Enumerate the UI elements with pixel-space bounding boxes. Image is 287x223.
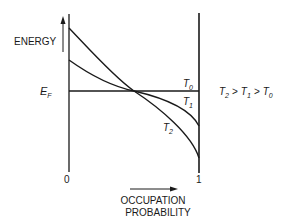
fermi-diagram: ENERGY EF T0 T1 T2 T2>T1>T0 0 1 OCCUPATI…: [0, 0, 287, 223]
x-tick-0: 0: [64, 174, 70, 185]
curve-t1: [69, 60, 199, 126]
x-tick-1: 1: [196, 174, 202, 185]
curve-t2: [69, 28, 199, 158]
energy-arrow-icon: [61, 16, 66, 52]
t0-label: T0: [183, 78, 193, 91]
x-axis-label-line1: OCCUPATION: [120, 195, 185, 206]
probability-arrow-icon: [130, 187, 178, 192]
x-axis-label-line2: PROBABILITY: [125, 207, 191, 218]
t1-label: T1: [183, 96, 193, 109]
t2-label: T2: [163, 122, 173, 135]
temperature-relation: T2>T1>T0: [219, 86, 273, 99]
fermi-level-label: EF: [40, 85, 52, 99]
energy-label: ENERGY: [14, 36, 57, 47]
